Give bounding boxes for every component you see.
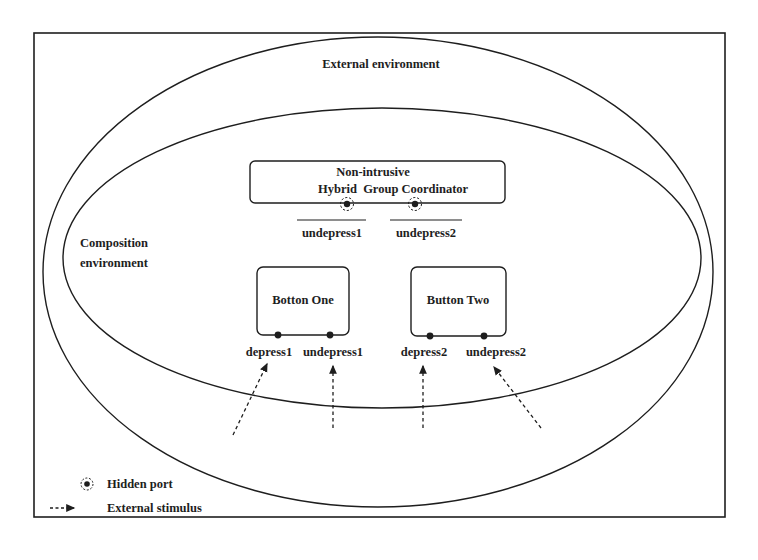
composition-environment-label-line2: environment (80, 256, 148, 270)
composition-environment-ellipse (63, 108, 701, 408)
port-label-undepress1: undepress1 (303, 345, 363, 359)
diagram-frame (34, 33, 725, 517)
composition-environment-label-line1: Composition (80, 236, 148, 250)
diagram-canvas (0, 0, 758, 560)
port-label-undepress2: undepress2 (466, 345, 526, 359)
coordinator-label-line1: Non-intrusive (336, 165, 410, 179)
stimulus-arrow-depress1 (233, 364, 267, 435)
legend-external-stimulus-label: External stimulus (107, 501, 202, 515)
hidden-port-label: undepress1 (302, 226, 362, 240)
coordinator-label-line2: Hybrid Group Coordinator (318, 182, 468, 196)
port-icon (275, 332, 282, 339)
port-label-depress1: depress1 (246, 345, 292, 359)
legend-hidden-port-icon (81, 478, 93, 490)
hidden-port-label: undepress2 (396, 226, 456, 240)
legend-hidden-port-label: Hidden port (107, 477, 173, 491)
port-icon (327, 332, 334, 339)
port-icon (481, 333, 488, 340)
external-environment-label: External environment (322, 57, 439, 71)
port-icon (427, 333, 434, 340)
button-one-label: Botton One (272, 293, 333, 307)
button-two-label: Button Two (427, 293, 489, 307)
port-label-depress2: depress2 (401, 345, 447, 359)
